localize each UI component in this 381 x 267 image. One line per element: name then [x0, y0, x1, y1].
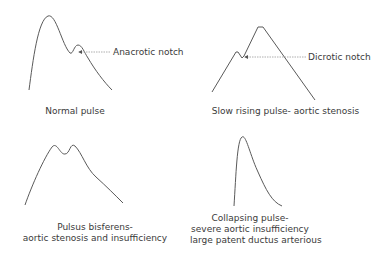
normal-pulse-waveform: [29, 16, 112, 90]
caption-line: aortic stenosis and insufficiency: [0, 233, 190, 244]
caption-line: severe aortic insufficiency: [190, 224, 310, 235]
caption-line: large patent ductus arterious: [190, 235, 310, 246]
caption-line: Collapsing pulse-: [190, 213, 310, 224]
collapsing-pulse-caption: Collapsing pulse- severe aortic insuffic…: [190, 213, 310, 246]
anacrotic-notch-label: Anacrotic notch: [113, 47, 184, 58]
caption-line: Pulsus bisferens-: [0, 222, 190, 233]
slow-rising-pulse-waveform: [212, 27, 315, 100]
normal-pulse-caption: Normal pulse: [0, 106, 150, 117]
pulsus-bisferiens-waveform: [25, 145, 123, 205]
dicrotic-notch-label: Dicrotic notch: [308, 52, 371, 63]
caption-line: Normal pulse: [0, 106, 150, 117]
slow-rising-pulse-caption: Slow rising pulse- aortic stenosis: [190, 106, 381, 117]
collapsing-pulse-waveform: [234, 137, 282, 206]
caption-line: Slow rising pulse- aortic stenosis: [190, 106, 381, 117]
pulsus-bisferiens-caption: Pulsus bisferens- aortic stenosis and in…: [0, 222, 190, 244]
